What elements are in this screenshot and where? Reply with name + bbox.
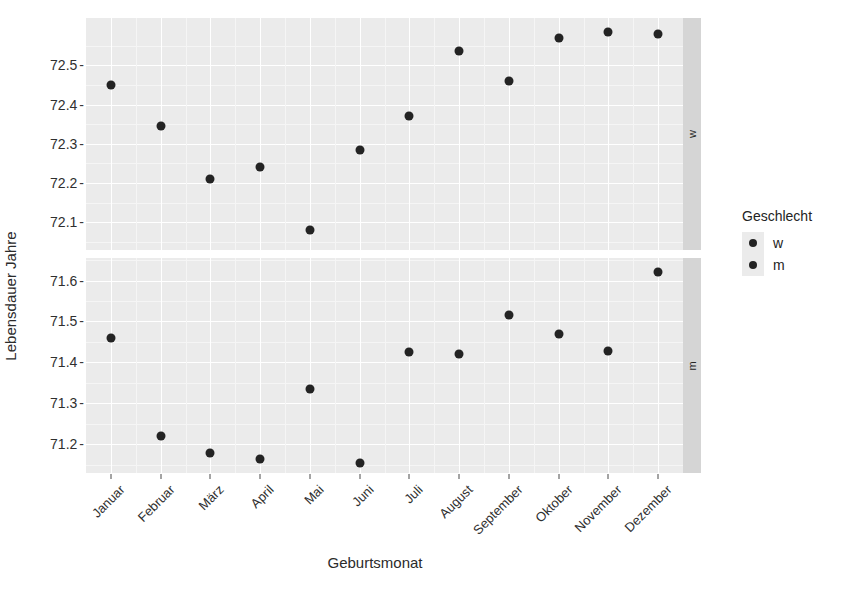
chart-root: Lebensdauer Jahre 72.1-72.2-72.3-72.4-72… bbox=[0, 0, 862, 592]
x-tick-mark bbox=[658, 474, 659, 479]
legend-label: w bbox=[773, 235, 783, 251]
x-tick-label: April bbox=[248, 482, 277, 511]
legend-items: wm bbox=[742, 232, 852, 276]
legend-label: m bbox=[773, 257, 785, 273]
x-tick-mark bbox=[309, 474, 310, 479]
legend-item[interactable]: m bbox=[742, 254, 852, 276]
x-tick-label: Dezember bbox=[622, 482, 675, 535]
x-tick-label: Juli bbox=[402, 482, 426, 506]
legend: Geschlecht wm bbox=[742, 208, 852, 276]
legend-dot-icon bbox=[749, 261, 757, 269]
x-tick-label: August bbox=[436, 482, 475, 521]
x-tick-label: Oktober bbox=[532, 482, 575, 525]
x-tick-mark bbox=[459, 474, 460, 479]
legend-item[interactable]: w bbox=[742, 232, 852, 254]
x-axis-title: Geburtsmonat bbox=[327, 554, 422, 571]
x-tick-mark bbox=[260, 474, 261, 479]
legend-key bbox=[742, 232, 764, 254]
x-tick-mark bbox=[210, 474, 211, 479]
x-tick-label: Mai bbox=[301, 482, 326, 507]
x-tick-label: November bbox=[572, 482, 625, 535]
x-tick-mark bbox=[608, 474, 609, 479]
x-tick-mark bbox=[508, 474, 509, 479]
legend-dot-icon bbox=[749, 239, 757, 247]
x-tick-label: Februar bbox=[134, 482, 177, 525]
x-axis-ticks: JanuarFebruarMärzAprilMaiJuniJuliAugustS… bbox=[0, 0, 862, 592]
x-tick-label: Juni bbox=[349, 482, 376, 509]
x-tick-label: März bbox=[196, 482, 227, 513]
legend-title: Geschlecht bbox=[742, 208, 852, 224]
x-tick-mark bbox=[160, 474, 161, 479]
x-tick-label: September bbox=[470, 482, 526, 538]
x-tick-mark bbox=[359, 474, 360, 479]
x-tick-mark bbox=[110, 474, 111, 479]
x-tick-label: Januar bbox=[89, 482, 128, 521]
legend-key bbox=[742, 254, 764, 276]
x-tick-mark bbox=[558, 474, 559, 479]
x-tick-mark bbox=[409, 474, 410, 479]
